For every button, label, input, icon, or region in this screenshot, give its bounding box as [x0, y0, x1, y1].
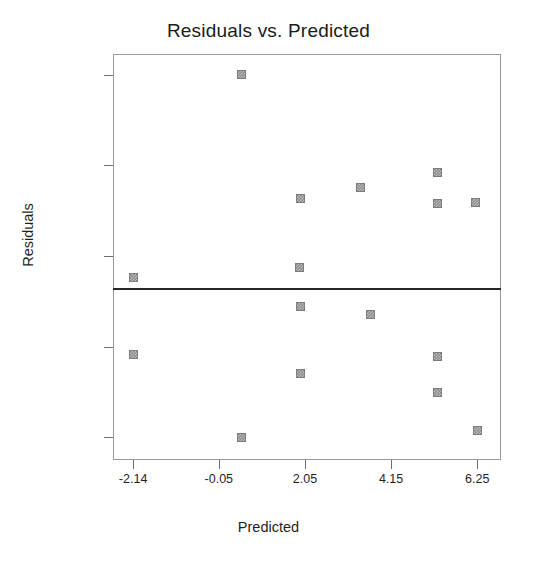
x-axis-tick-label: 4.15	[351, 472, 431, 486]
data-point-marker	[295, 263, 304, 272]
y-axis-tick-mark	[104, 75, 113, 76]
data-point-marker	[471, 198, 480, 207]
y-axis-tick-mark	[104, 256, 113, 257]
x-axis-title: Predicted	[0, 519, 537, 535]
x-axis-tick-label: -2.14	[93, 472, 173, 486]
x-axis-tick-label: 6.25	[437, 472, 517, 486]
zero-reference-line	[113, 288, 501, 290]
data-point-marker	[366, 310, 375, 319]
data-point-marker	[296, 302, 305, 311]
x-axis-tick-mark	[219, 460, 220, 469]
x-axis-tick-mark	[391, 460, 392, 469]
data-point-marker	[296, 194, 305, 203]
x-axis-tick-label: -0.05	[179, 472, 259, 486]
x-axis-tick-mark	[133, 460, 134, 469]
data-point-marker	[433, 352, 442, 361]
plot-area	[113, 54, 501, 460]
data-point-marker	[433, 199, 442, 208]
data-point-marker	[237, 433, 246, 442]
chart-title: Residuals vs. Predicted	[0, 20, 537, 42]
y-axis-tick-mark	[104, 347, 113, 348]
y-axis-title: Residuals	[20, 155, 36, 315]
x-axis-tick-mark	[305, 460, 306, 469]
x-axis-tick-label: 2.05	[265, 472, 345, 486]
y-axis-tick-mark	[104, 437, 113, 438]
data-point-marker	[129, 273, 138, 282]
data-point-marker	[433, 168, 442, 177]
x-axis-tick-mark	[477, 460, 478, 469]
data-point-marker	[129, 350, 138, 359]
data-point-marker	[473, 426, 482, 435]
residual-plot-screenshot: Residuals vs. Predicted 1.58750.9150.242…	[0, 0, 537, 561]
data-point-marker	[296, 369, 305, 378]
data-point-marker	[356, 183, 365, 192]
data-point-marker	[237, 70, 246, 79]
y-axis-tick-mark	[104, 165, 113, 166]
data-point-marker	[433, 388, 442, 397]
